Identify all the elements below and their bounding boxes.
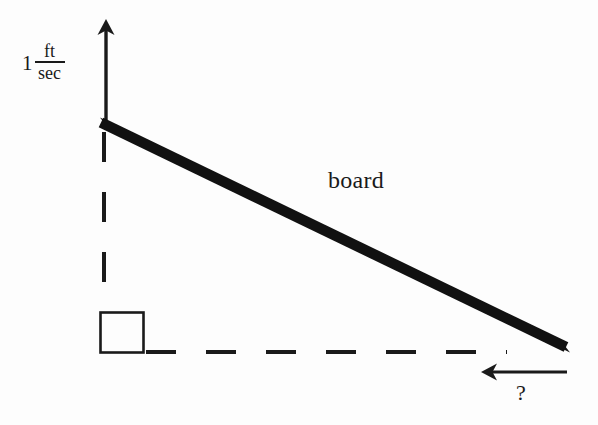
speed-value: 1 — [22, 53, 33, 74]
sliding-board-diagram: 1 ft sec board ? — [0, 0, 598, 425]
speed-denominator: sec — [36, 63, 63, 82]
speed-fraction: ft sec — [35, 42, 65, 82]
speed-numerator: ft — [42, 42, 57, 61]
right-angle-marker-icon — [101, 313, 144, 353]
speed-label: 1 ft sec — [22, 42, 65, 82]
board-shape — [100, 118, 570, 353]
arrow-up-icon — [98, 19, 115, 130]
diagram-canvas — [0, 0, 598, 425]
unknown-speed-label: ? — [516, 382, 526, 404]
arrow-left-icon — [481, 364, 567, 381]
board-core — [101, 123, 566, 348]
board-label: board — [328, 168, 384, 192]
